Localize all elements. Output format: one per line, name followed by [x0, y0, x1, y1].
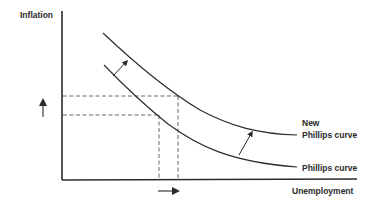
phillips-curve-diagram: Inflation Unemployment New Phillips curv… [0, 0, 380, 207]
shift-arrow-lower [239, 132, 252, 155]
y-axis-label: Inflation [20, 10, 53, 20]
x-axis [62, 179, 357, 180]
shift-arrow-upper [113, 61, 127, 76]
phillips-curve-line [104, 65, 297, 167]
new-phillips-curve-label-line2: Phillips curve [302, 130, 358, 140]
new-phillips-curve-line [103, 33, 297, 135]
phillips-curve-label: Phillips curve [302, 163, 358, 173]
new-phillips-curve-label-line1: New [302, 118, 320, 128]
x-axis-label: Unemployment [292, 186, 354, 196]
